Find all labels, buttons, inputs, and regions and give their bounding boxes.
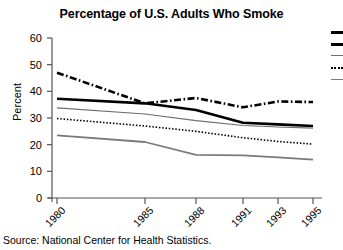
legend <box>331 26 343 86</box>
axes <box>47 38 322 204</box>
data-series-group <box>57 73 313 160</box>
source-note: Source: National Center for Health Stati… <box>3 234 211 246</box>
legend-swatch <box>331 43 343 46</box>
legend-item <box>331 26 343 38</box>
plot-area <box>0 0 343 250</box>
legend-item <box>331 38 343 50</box>
legend-item <box>331 74 343 86</box>
chart-container: Percentage of U.S. Adults Who Smoke Perc… <box>0 0 343 250</box>
legend-swatch <box>331 67 343 69</box>
legend-item <box>331 50 343 62</box>
series-line-0 <box>57 73 313 108</box>
legend-swatch <box>331 31 343 34</box>
legend-item <box>331 62 343 74</box>
legend-swatch <box>331 55 343 56</box>
legend-swatch <box>331 79 343 80</box>
series-line-3 <box>57 119 313 145</box>
series-line-4 <box>57 135 313 159</box>
